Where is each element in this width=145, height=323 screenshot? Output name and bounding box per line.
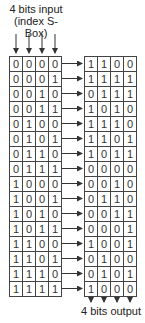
arrows-overlay — [0, 0, 145, 323]
input-arrows-down-icon — [16, 34, 55, 53]
output-arrows-down-icon — [91, 298, 130, 302]
mapping-arrows-icon — [62, 64, 82, 289]
output-label: 4 bits output — [78, 305, 144, 317]
